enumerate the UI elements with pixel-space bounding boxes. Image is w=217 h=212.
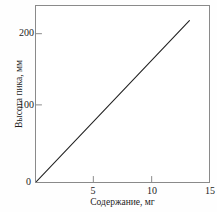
x-tick-label-10: 10 (147, 186, 157, 196)
plot-area (36, 6, 209, 182)
x-tick-label-5: 5 (91, 186, 96, 196)
y-axis-title: Высота пика, мм (12, 5, 26, 183)
origin-tick-label-0: 0 (26, 177, 31, 187)
y-axis-ticks (36, 34, 42, 105)
x-tick-label-15: 15 (205, 186, 215, 196)
x-axis-ticks (93, 176, 151, 182)
calibration-chart-figure: 200 100 0 5 10 15 Содержание, мг Высота … (0, 0, 217, 212)
calibration-line (36, 21, 189, 182)
x-axis-title: Содержание, мг (35, 197, 210, 207)
plot-frame (35, 5, 210, 183)
